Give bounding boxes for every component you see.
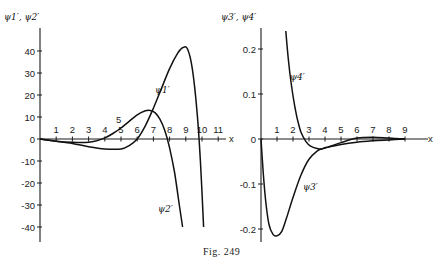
y-tick-label: 30 [24, 68, 35, 79]
x-tick-label: 9 [402, 124, 407, 135]
figure-249: ψ1′, ψ2′x1234567891011-40-30-20-10010203… [0, 0, 440, 263]
x-tick-label: 6 [135, 124, 140, 135]
y-tick-label: 0 [30, 134, 35, 145]
left-chart-psi1-psi2: ψ1′, ψ2′x1234567891011-40-30-20-10010203… [4, 12, 234, 242]
y-tick-label: 40 [24, 46, 35, 57]
x-tick-label: 6 [354, 124, 359, 135]
series-line-1 [261, 139, 405, 236]
y-tick-label: -0.2 [240, 224, 256, 235]
figure-caption: Fig. 249 [203, 246, 240, 257]
right-chart-psi3-psi4: ψ3′, ψ4′x123456789-0.2-0.100.10.2ψ3′ψ4′ [221, 12, 433, 242]
x-tick-label: 9 [183, 124, 188, 135]
x-tick-label: 8 [167, 124, 172, 135]
x-axis-title: x [428, 133, 433, 144]
y-tick-label: 0 [251, 134, 256, 145]
y-axis-title: ψ1′, ψ2′ [4, 12, 39, 22]
x-axis-title: x [229, 133, 234, 144]
x-tick-label: 2 [290, 124, 295, 135]
y-tick-label: 10 [24, 112, 35, 123]
x-tick-label: 5 [338, 124, 343, 135]
x-tick-label: 8 [386, 124, 391, 135]
y-tick-label: -10 [21, 156, 35, 167]
x-tick-label: 4 [322, 124, 327, 135]
x-tick-label: 7 [151, 124, 156, 135]
y-tick-label: -40 [21, 222, 35, 233]
x-tick-label: 4 [102, 124, 107, 135]
x-tick-label: 7 [370, 124, 375, 135]
x-tick-label: 3 [86, 124, 91, 135]
annotation-label: 5 [116, 114, 121, 125]
y-axis-title: ψ3′, ψ4′ [221, 12, 256, 22]
x-tick-label: 11 [213, 124, 223, 135]
x-tick-label: 1 [274, 124, 279, 135]
y-tick-label: 0.2 [243, 44, 256, 55]
series-label: ψ4′ [290, 72, 305, 82]
series-label: ψ2′ [158, 204, 173, 214]
y-tick-label: 0.1 [243, 89, 256, 100]
series-label: ψ3′ [303, 182, 318, 192]
y-tick-label: -30 [21, 200, 35, 211]
y-tick-label: -20 [21, 178, 35, 189]
x-tick-label: 3 [306, 124, 311, 135]
x-tick-label: 2 [70, 124, 75, 135]
x-tick-label: 1 [54, 124, 59, 135]
y-tick-label: 20 [24, 90, 35, 101]
y-tick-label: -0.1 [240, 179, 256, 190]
series-label: ψ1′ [155, 85, 170, 95]
